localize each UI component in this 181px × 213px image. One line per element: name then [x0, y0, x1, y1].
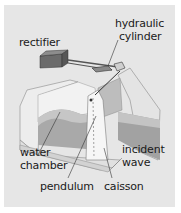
pendulum-pivot — [90, 99, 93, 102]
cylinder-housing — [114, 62, 125, 71]
label-pendulum: pendulum — [40, 181, 94, 193]
label-caisson: caisson — [104, 181, 144, 193]
label-chamber: chamber — [20, 160, 67, 172]
rectifier-box-front — [40, 54, 62, 68]
rectifier-pipe-1 — [68, 60, 118, 67]
label-rectifier: rectifier — [19, 37, 60, 49]
leader-hydraulic — [108, 40, 118, 66]
label-cylinder: cylinder — [119, 31, 161, 43]
label-wave: wave — [122, 157, 150, 169]
label-water: water — [20, 147, 50, 159]
label-hydraulic: hydraulic — [115, 18, 164, 30]
label-incident: incident — [122, 144, 165, 156]
